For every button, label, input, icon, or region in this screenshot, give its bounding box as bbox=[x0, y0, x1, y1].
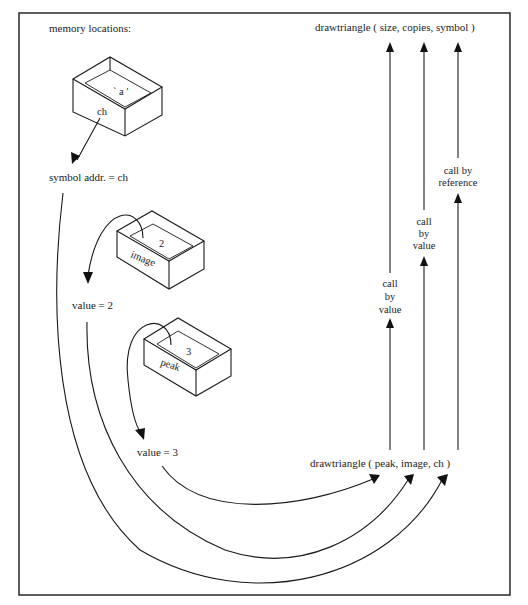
function-definition-text: drawtriangle ( size, copies, symbol ) bbox=[315, 21, 475, 34]
arrow-head-icon bbox=[420, 42, 428, 52]
arrow-head-icon bbox=[454, 42, 462, 52]
box-peak-label: peak bbox=[159, 356, 182, 373]
call-label-size-3: value bbox=[379, 304, 402, 315]
memory-locations-title: memory locations: bbox=[49, 22, 131, 34]
value-3-text: value = 3 bbox=[137, 446, 179, 458]
arrow-head-icon bbox=[83, 272, 93, 284]
value-2-text: value = 2 bbox=[72, 299, 113, 311]
arrow-head-icon bbox=[369, 474, 380, 484]
arrow-head-icon bbox=[386, 318, 394, 328]
arrow-head-icon bbox=[454, 193, 462, 203]
box-peak-content: 3 bbox=[186, 346, 191, 357]
call-label-copies-2: by bbox=[419, 228, 430, 239]
arrow-head-icon bbox=[437, 474, 448, 486]
call-label-symbol-2: reference bbox=[438, 177, 477, 188]
memory-box-peak: 3 peak bbox=[144, 318, 231, 396]
box-image-content: 2 bbox=[159, 238, 164, 249]
memory-box-ch: ` a ' ch bbox=[73, 57, 162, 136]
arrow-head-icon bbox=[386, 42, 394, 52]
function-call-text: drawtriangle ( peak, image, ch ) bbox=[310, 457, 451, 470]
call-label-size-2: by bbox=[385, 291, 396, 302]
call-label-copies-1: call bbox=[416, 216, 431, 227]
call-label-copies-3: value bbox=[413, 240, 436, 251]
box-ch-content: ` a ' bbox=[113, 86, 128, 97]
box-ch-label: ch bbox=[97, 106, 108, 117]
symbol-addr-text: symbol addr. = ch bbox=[49, 171, 128, 183]
arrow-head-icon bbox=[420, 256, 428, 266]
call-label-symbol-1: call by bbox=[444, 165, 473, 176]
call-label-size-1: call bbox=[382, 278, 397, 289]
call-by-value-reference-diagram: memory locations: ` a ' ch symbol addr. … bbox=[0, 0, 528, 605]
arrow-head-icon bbox=[135, 428, 145, 440]
memory-box-image: 2 image bbox=[117, 211, 204, 289]
